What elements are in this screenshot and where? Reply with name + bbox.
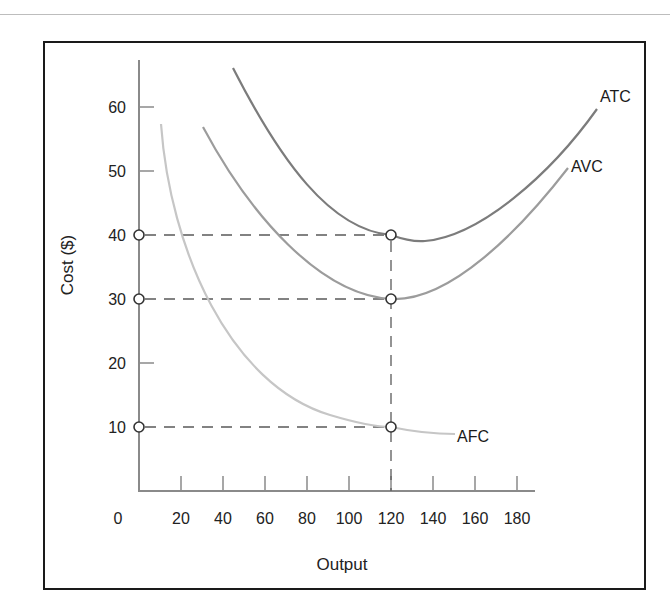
highlighted-points — [134, 230, 396, 432]
x-tick-label: 160 — [462, 510, 489, 527]
x-tick-label: 60 — [256, 510, 274, 527]
x-tick-label: 40 — [214, 510, 232, 527]
x-ticks — [181, 476, 517, 491]
atc-label: ATC — [600, 88, 631, 105]
avc-curve — [203, 127, 568, 299]
cost-curves-chart: 60 50 40 30 20 10 0 20 40 60 80 100 120 … — [0, 0, 670, 611]
x-tick-label: 120 — [378, 510, 405, 527]
avc-label: AVC — [571, 158, 603, 175]
x-tick-labels: 0 20 40 60 80 100 120 140 160 180 — [114, 510, 531, 527]
y-tick-label: 60 — [108, 99, 126, 116]
y-tick-label: 50 — [108, 163, 126, 180]
x-tick-label: 180 — [504, 510, 531, 527]
afc-label: AFC — [457, 428, 489, 445]
y-tick-label: 10 — [108, 419, 126, 436]
x-tick-label: 0 — [114, 510, 123, 527]
atc-curve — [233, 68, 597, 241]
point-avc-q120 — [386, 294, 396, 304]
point-afc-q120 — [386, 422, 396, 432]
y-tick-label: 40 — [108, 227, 126, 244]
y-axis-title: Cost ($) — [58, 235, 77, 295]
y-tick-label: 20 — [108, 355, 126, 372]
point-y40-axis — [134, 230, 144, 240]
point-y10-axis — [134, 422, 144, 432]
point-atc-q120 — [386, 230, 396, 240]
x-tick-label: 140 — [420, 510, 447, 527]
y-tick-labels: 60 50 40 30 20 10 — [108, 99, 126, 436]
y-tick-label: 30 — [108, 291, 126, 308]
reference-lines — [145, 235, 391, 491]
x-tick-label: 80 — [298, 510, 316, 527]
afc-curve — [161, 124, 455, 434]
x-axis-title: Output — [316, 555, 367, 574]
point-y30-axis — [134, 294, 144, 304]
x-tick-label: 20 — [172, 510, 190, 527]
x-tick-label: 100 — [336, 510, 363, 527]
